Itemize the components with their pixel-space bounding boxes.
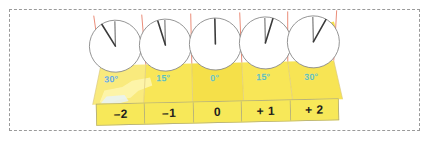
angle-label-plus-2: 30°: [304, 72, 318, 82]
order-cell-plus-2[interactable]: + 2: [290, 99, 338, 120]
clock-faces-group: [89, 15, 340, 72]
order-cell-minus-2[interactable]: –2: [97, 104, 146, 125]
clock-plus-1: [239, 16, 292, 69]
clock-plus-2-reference: [313, 17, 314, 42]
clock-minus-2-reference: [115, 21, 116, 46]
angle-label-zero: 0°: [210, 73, 219, 83]
clock-plus-1-reference: [265, 18, 266, 43]
angle-label-minus-2: 30°: [104, 74, 118, 84]
clock-zero-hand: [215, 19, 216, 44]
order-cell-zero[interactable]: 0: [194, 101, 243, 122]
clock-minus-1: [139, 19, 192, 72]
order-cell-minus-1[interactable]: –1: [145, 103, 194, 124]
angle-label-minus-1: 15°: [156, 73, 170, 83]
order-cell-plus-1[interactable]: + 1: [242, 100, 291, 121]
clock-zero: [189, 17, 242, 70]
clock-plus-2: [287, 15, 340, 68]
clock-minus-2: [89, 20, 142, 73]
angle-label-plus-1: 15°: [256, 72, 270, 82]
